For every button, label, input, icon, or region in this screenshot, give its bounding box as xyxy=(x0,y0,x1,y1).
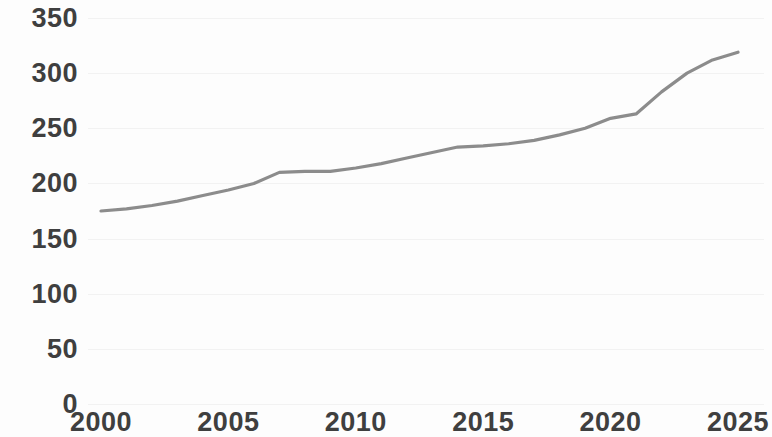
x-axis-tick-label: 2010 xyxy=(325,407,387,437)
x-axis-tick: 2025 xyxy=(678,409,772,436)
series-line xyxy=(101,52,738,211)
x-axis-tick: 2005 xyxy=(168,409,288,436)
x-axis-tick: 2015 xyxy=(423,409,543,436)
line-chart: 050100150200250300350 200020052010201520… xyxy=(0,0,772,437)
x-axis-tick-label: 2005 xyxy=(197,407,259,437)
x-axis-tick: 2000 xyxy=(41,409,161,436)
x-axis-tick-label: 2025 xyxy=(707,407,769,437)
plot-area xyxy=(0,0,772,437)
x-axis-tick: 2020 xyxy=(551,409,671,436)
x-axis-tick-label: 2020 xyxy=(580,407,642,437)
x-axis-tick-label: 2000 xyxy=(70,407,132,437)
x-axis-tick: 2010 xyxy=(296,409,416,436)
x-axis-tick-label: 2015 xyxy=(452,407,514,437)
